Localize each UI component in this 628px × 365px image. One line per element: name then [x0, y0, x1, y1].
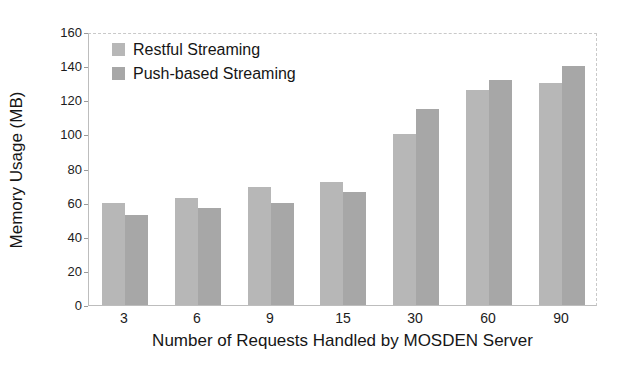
- bar-push-based-streaming-15: [343, 192, 366, 305]
- legend-item-push-based-streaming: Push-based Streaming: [112, 64, 296, 83]
- x-tick-label-3: 3: [94, 310, 154, 326]
- x-tick-label-6: 6: [167, 310, 227, 326]
- legend-label-restful-streaming: Restful Streaming: [133, 41, 260, 59]
- y-tick-label-0: 0: [40, 298, 82, 314]
- bar-push-based-streaming-90: [562, 66, 585, 305]
- y-tick-mark-40: [84, 238, 88, 239]
- legend-label-push-based-streaming: Push-based Streaming: [133, 65, 296, 83]
- x-axis-title: Number of Requests Handled by MOSDEN Ser…: [88, 331, 597, 351]
- bar-push-based-streaming-3: [125, 215, 148, 305]
- y-tick-mark-100: [84, 135, 88, 136]
- y-tick-mark-20: [84, 272, 88, 273]
- legend-item-restful-streaming: Restful Streaming: [112, 40, 296, 59]
- y-tick-label-160: 160: [40, 25, 82, 41]
- legend-swatch-push-based-streaming: [112, 67, 125, 80]
- bar-restful-streaming-9: [248, 187, 271, 305]
- y-axis-title-box: Memory Usage (MB): [4, 33, 30, 306]
- legend-swatch-restful-streaming: [112, 43, 125, 56]
- bar-restful-streaming-6: [175, 198, 198, 305]
- y-tick-label-60: 60: [40, 196, 82, 212]
- y-tick-label-40: 40: [40, 230, 82, 246]
- y-tick-mark-0: [84, 306, 88, 307]
- bar-restful-streaming-90: [539, 83, 562, 305]
- y-tick-mark-120: [84, 101, 88, 102]
- y-tick-label-80: 80: [40, 162, 82, 178]
- y-tick-mark-60: [84, 204, 88, 205]
- y-tick-label-20: 20: [40, 264, 82, 280]
- x-tick-label-30: 30: [385, 310, 445, 326]
- bar-push-based-streaming-30: [416, 109, 439, 305]
- bar-restful-streaming-30: [393, 134, 416, 305]
- bar-push-based-streaming-6: [198, 208, 221, 305]
- x-tick-label-15: 15: [313, 310, 373, 326]
- y-axis-title: Memory Usage (MB): [7, 91, 27, 248]
- x-tick-label-9: 9: [240, 310, 300, 326]
- bar-push-based-streaming-60: [489, 80, 512, 305]
- y-tick-label-140: 140: [40, 59, 82, 75]
- y-tick-label-100: 100: [40, 127, 82, 143]
- memory-usage-bar-chart: Memory Usage (MB) Restful Streaming Push…: [0, 0, 628, 365]
- bar-restful-streaming-15: [320, 182, 343, 305]
- x-tick-label-90: 90: [531, 310, 591, 326]
- x-tick-label-60: 60: [458, 310, 518, 326]
- bar-push-based-streaming-9: [271, 203, 294, 305]
- bar-restful-streaming-60: [466, 90, 489, 305]
- bar-restful-streaming-3: [102, 203, 125, 305]
- y-tick-label-120: 120: [40, 93, 82, 109]
- legend: Restful Streaming Push-based Streaming: [112, 40, 296, 83]
- y-tick-mark-80: [84, 170, 88, 171]
- y-tick-mark-160: [84, 33, 88, 34]
- y-tick-mark-140: [84, 67, 88, 68]
